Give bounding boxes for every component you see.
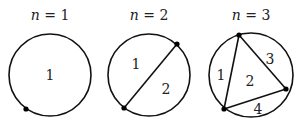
chord	[224, 35, 239, 109]
point	[121, 105, 126, 110]
panel-n2: n = 2 1 2	[108, 7, 190, 116]
circle-division-diagram: n = 1 1 n = 2 1 2 n = 3 1 2 3 4	[0, 0, 298, 130]
point	[283, 86, 288, 91]
point	[236, 32, 241, 37]
chord	[124, 44, 177, 108]
region-label: 3	[266, 51, 275, 67]
panel-title: n = 2	[130, 7, 169, 23]
point	[23, 106, 28, 111]
panel-n3: n = 3 1 2 3 4	[209, 7, 293, 117]
region-label: 2	[246, 73, 255, 89]
region-label: 4	[254, 101, 263, 117]
region-label: 2	[162, 81, 171, 97]
panel-title: n = 3	[232, 7, 271, 23]
region-label: 1	[132, 56, 141, 72]
point	[174, 41, 179, 46]
panel-title: n = 1	[31, 7, 70, 23]
panel-n1: n = 1 1	[9, 7, 91, 116]
region-label: 1	[217, 67, 226, 83]
region-label: 1	[46, 67, 55, 83]
point	[221, 106, 226, 111]
